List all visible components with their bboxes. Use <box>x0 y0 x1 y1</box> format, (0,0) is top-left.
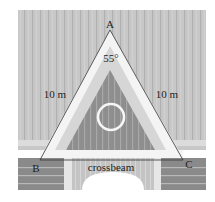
vertex-c-label: C <box>185 158 192 170</box>
right-brick-block <box>161 158 206 190</box>
angle-label: 55° <box>103 52 118 64</box>
vertex-a-label: A <box>106 18 114 30</box>
left-brick-block <box>18 158 64 190</box>
triangle-roof-diagram: A 55° 10 m 10 m B C crossbeam <box>0 0 215 202</box>
vertex-b-label: B <box>32 162 39 174</box>
crossbeam-label: crossbeam <box>88 161 135 173</box>
right-side-label: 10 m <box>156 88 179 100</box>
left-side-label: 10 m <box>44 88 67 100</box>
